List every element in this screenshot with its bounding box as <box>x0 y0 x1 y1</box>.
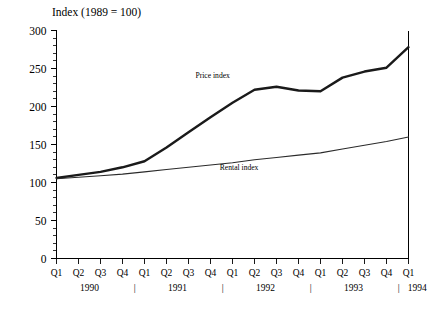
chart-series <box>57 47 409 178</box>
x-axis-quarter-label: Q3 <box>95 268 107 278</box>
x-axis-year-label: 1993 <box>344 283 363 293</box>
chart-container: 050100150200250300 Q1Q2Q3Q4Q1Q2Q3Q4Q1Q2Q… <box>0 0 434 313</box>
x-axis-quarter-label: Q3 <box>359 268 371 278</box>
y-axis-tick-label: 50 <box>35 215 47 227</box>
chart-axes <box>57 31 409 259</box>
year-separator-mark: | <box>222 283 224 293</box>
x-axis-quarter-label: Q2 <box>249 268 261 278</box>
x-axis-year-label: 1990 <box>80 283 99 293</box>
x-axis-quarter-labels: Q1Q2Q3Q4Q1Q2Q3Q4Q1Q2Q3Q4Q1Q2Q3Q4Q1 <box>51 268 415 278</box>
series-label-price-index: Price index <box>196 71 231 80</box>
y-axis-tick-label: 300 <box>29 25 47 37</box>
y-axis-tick-label: 0 <box>41 253 47 265</box>
x-axis-quarter-label: Q1 <box>139 268 151 278</box>
y-axis-tick-labels: 050100150200250300 <box>29 25 47 265</box>
x-axis-quarter-label: Q1 <box>227 268 239 278</box>
x-axis-quarter-label: Q4 <box>205 268 217 278</box>
y-axis-tick-label: 200 <box>29 101 47 113</box>
x-axis-year-label: 1994 <box>408 283 427 293</box>
x-axis-quarter-label: Q3 <box>183 268 195 278</box>
y-axis-ticks <box>51 31 57 259</box>
x-axis-quarter-label: Q1 <box>51 268 63 278</box>
series-line-rental-index <box>57 137 409 179</box>
x-axis-quarter-label: Q4 <box>117 268 129 278</box>
series-label-rental-index: Rental index <box>220 163 259 172</box>
y-axis-tick-label: 150 <box>29 139 47 151</box>
y-axis-tick-label: 250 <box>29 63 47 75</box>
line-chart: 050100150200250300 Q1Q2Q3Q4Q1Q2Q3Q4Q1Q2Q… <box>0 0 434 313</box>
year-separator-mark: | <box>310 283 312 293</box>
year-separator-mark: | <box>134 283 136 293</box>
x-axis-quarter-label: Q4 <box>293 268 305 278</box>
y-axis-tick-label: 100 <box>29 177 47 189</box>
x-axis-quarter-label: Q2 <box>337 268 349 278</box>
x-axis-quarter-label: Q3 <box>271 268 283 278</box>
x-axis-quarter-label: Q2 <box>161 268 173 278</box>
x-axis-ticks <box>57 259 409 264</box>
x-axis-quarter-label: Q4 <box>381 268 393 278</box>
chart-title: Index (1989 = 100) <box>52 6 141 19</box>
x-axis-quarter-label: Q2 <box>73 268 85 278</box>
x-axis-year-label: 1991 <box>168 283 187 293</box>
x-axis-quarter-label: Q1 <box>403 268 415 278</box>
year-separator-mark: | <box>398 283 400 293</box>
series-line-price-index <box>57 47 409 178</box>
x-axis-year-label: 1992 <box>256 283 275 293</box>
x-axis-quarter-label: Q1 <box>315 268 327 278</box>
x-axis-year-labels: 19901991199219931994|||| <box>80 283 427 293</box>
